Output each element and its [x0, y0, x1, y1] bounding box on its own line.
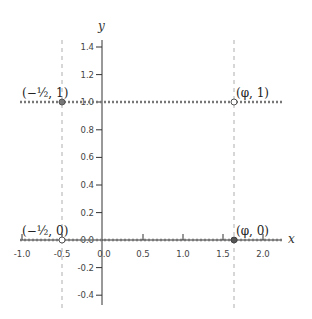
svg-text:0.8: 0.8 [80, 125, 94, 135]
label-phi-0: (φ, 0) [236, 224, 269, 238]
svg-text:0.0: 0.0 [97, 249, 111, 259]
label-neg-half-1: (−½, 1) [22, 86, 68, 100]
svg-text:-0.4: -0.4 [77, 290, 94, 300]
svg-text:1.4: 1.4 [80, 42, 94, 52]
svg-text:0.5: 0.5 [136, 249, 150, 259]
svg-text:2.0: 2.0 [256, 249, 270, 259]
label-neg-half-0: (−½, 0) [22, 224, 68, 238]
svg-text:0.6: 0.6 [80, 152, 94, 162]
chart: y 1.4 1.2 1.0 0.8 0.6 0.4 0.2 0.0 -0.2 -… [0, 0, 312, 319]
label-phi-1: (φ, 1) [236, 86, 269, 100]
svg-text:-0.2: -0.2 [77, 263, 94, 273]
svg-text:1.0: 1.0 [80, 97, 94, 107]
svg-text:-0.5: -0.5 [54, 249, 71, 259]
svg-text:0.2: 0.2 [80, 208, 94, 218]
y-axis-label: y [97, 19, 105, 33]
svg-text:1.2: 1.2 [80, 70, 94, 80]
svg-text:1.5: 1.5 [216, 249, 230, 259]
svg-text:0.4: 0.4 [80, 180, 94, 190]
x-axis-label: x [288, 232, 295, 246]
svg-text:-1.0: -1.0 [14, 249, 31, 259]
x-tick-labels: -1.0 -0.5 0.0 0.5 1.0 1.5 2.0 [14, 249, 270, 259]
svg-text:1.0: 1.0 [176, 249, 190, 259]
y-tick-labels: 1.4 1.2 1.0 0.8 0.6 0.4 0.2 0.0 -0.2 -0.… [77, 42, 94, 300]
